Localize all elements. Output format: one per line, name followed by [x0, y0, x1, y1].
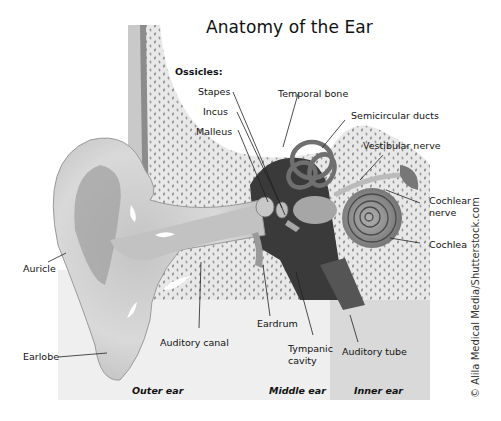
- label-temporal-bone: Temporal bone: [278, 88, 348, 100]
- ear-anatomy-diagram: Anatomy of the Ear Ossicles: Stapes Incu…: [0, 0, 501, 421]
- label-stapes: Stapes: [198, 86, 230, 98]
- ossicles-heading: Ossicles:: [175, 66, 222, 78]
- label-earlobe: Earlobe: [23, 351, 59, 363]
- label-cochlear-nerve-line1: Cochlear: [429, 195, 471, 206]
- label-tympanic-cavity: Tympanic cavity: [288, 343, 333, 367]
- label-malleus: Malleus: [196, 126, 232, 138]
- label-auricle: Auricle: [23, 263, 56, 275]
- label-cochlear-nerve: Cochlear nerve: [429, 195, 471, 219]
- label-cochlear-nerve-line2: nerve: [429, 207, 456, 218]
- label-eardrum: Eardrum: [257, 318, 298, 330]
- label-semicircular-ducts: Semicircular ducts: [351, 110, 439, 122]
- page-title: Anatomy of the Ear: [206, 17, 373, 37]
- section-middle-ear: Middle ear: [269, 385, 326, 396]
- section-inner-ear: Inner ear: [354, 385, 403, 396]
- label-tympanic-line2: cavity: [288, 355, 317, 366]
- copyright-credit: © Alila Medical Media/Shutterstock.com: [470, 197, 481, 398]
- malleus-shape: [256, 197, 274, 217]
- section-outer-ear: Outer ear: [132, 385, 183, 396]
- label-auditory-canal: Auditory canal: [160, 337, 229, 349]
- label-tympanic-line1: Tympanic: [288, 343, 333, 354]
- label-cochlea: Cochlea: [429, 239, 467, 251]
- label-auditory-tube: Auditory tube: [342, 346, 407, 358]
- label-incus: Incus: [203, 106, 228, 118]
- label-vestibular-nerve: Vestibular nerve: [363, 140, 441, 152]
- incus-shape: [276, 202, 288, 218]
- cochlea-shape: [342, 188, 402, 248]
- ear-illustration: [0, 0, 501, 421]
